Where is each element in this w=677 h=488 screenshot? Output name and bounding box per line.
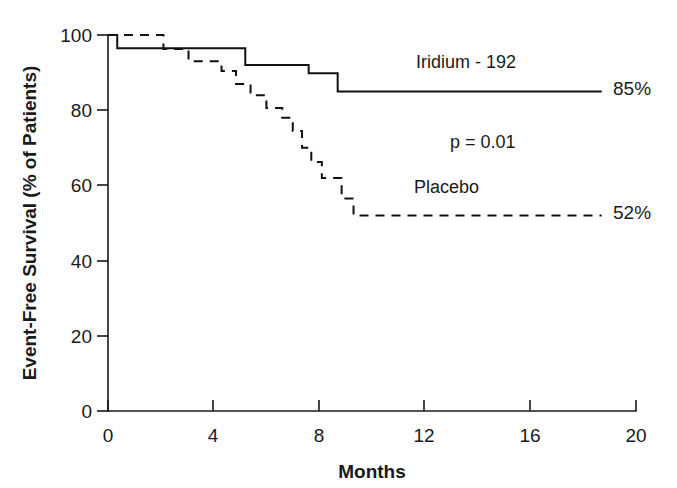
chart-page: 100 80 60 40 20 0 0 4 8 12 16 20 Months …	[0, 0, 677, 488]
y-tick-label-0: 0	[81, 401, 92, 422]
series-line-iridium-192	[108, 35, 602, 91]
kaplan-meier-chart: 100 80 60 40 20 0 0 4 8 12 16 20 Months …	[0, 0, 677, 488]
y-axis-ticks	[97, 35, 108, 411]
iridium-endpoint-label: 85%	[613, 78, 651, 99]
x-tick-label-20: 20	[625, 425, 646, 446]
x-tick-label-12: 12	[413, 425, 434, 446]
x-tick-label-4: 4	[208, 425, 219, 446]
y-tick-label-20: 20	[71, 326, 92, 347]
y-axis-title: Event-Free Survival (% of Patients)	[19, 66, 40, 381]
x-tick-label-16: 16	[519, 425, 540, 446]
p-value-label: p = 0.01	[450, 132, 516, 152]
y-tick-label-80: 80	[71, 100, 92, 121]
y-tick-label-60: 60	[71, 175, 92, 196]
x-axis-title: Months	[338, 461, 406, 482]
placebo-endpoint-label: 52%	[613, 202, 651, 223]
x-axis-ticks	[108, 400, 636, 411]
x-tick-label-0: 0	[103, 425, 114, 446]
y-tick-label-100: 100	[60, 25, 92, 46]
y-tick-label-40: 40	[71, 251, 92, 272]
placebo-series-label: Placebo	[414, 177, 479, 197]
iridium-series-label: Iridium - 192	[416, 52, 516, 72]
series-line-placebo	[108, 35, 602, 215]
x-tick-label-8: 8	[314, 425, 325, 446]
